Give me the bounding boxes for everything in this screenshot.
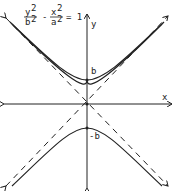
svg-text:b: b [25, 17, 30, 27]
svg-text:a: a [51, 17, 56, 27]
vertex-top-label: b [91, 66, 96, 76]
y-axis-label: y [91, 19, 97, 29]
hyperbola-diagram: b -b x y y 2 b 2 - x 2 a 2 = 1 [0, 0, 176, 191]
svg-text:= 1: = 1 [66, 12, 82, 22]
svg-text:-: - [42, 12, 47, 22]
vertex-bottom-point [86, 127, 89, 130]
svg-text:2: 2 [31, 14, 36, 24]
svg-text:2: 2 [57, 3, 62, 13]
equation: y 2 b 2 - x 2 a 2 = 1 [24, 3, 82, 27]
origin-point [86, 103, 89, 106]
vertex-top-point [86, 79, 89, 82]
svg-text:2: 2 [57, 14, 62, 24]
svg-text:2: 2 [31, 3, 36, 13]
x-axis-label: x [162, 92, 168, 102]
vertex-bottom-label: -b [89, 131, 100, 141]
